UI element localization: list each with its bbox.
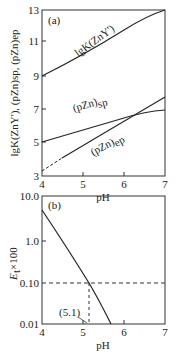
plot-frame-b bbox=[42, 196, 165, 324]
ytick-9: 9 bbox=[34, 70, 40, 82]
ytick-11: 11 bbox=[28, 35, 39, 47]
annotation-5.1: (5.1) bbox=[59, 306, 80, 319]
y-axis-label-b: E t ×100 bbox=[7, 247, 22, 281]
ytick-7: 7 bbox=[34, 103, 40, 115]
series-pZn-sp bbox=[42, 110, 165, 142]
svg-text:×100: ×100 bbox=[7, 247, 19, 270]
xtick-b-6: 6 bbox=[121, 326, 127, 338]
xtick-6: 6 bbox=[121, 178, 127, 190]
svg-text:E: E bbox=[7, 273, 19, 281]
ytick-13: 13 bbox=[28, 4, 40, 16]
series-pZn-ep-dashed bbox=[42, 158, 62, 171]
label-pZn-ep: (pZn) ep bbox=[88, 130, 127, 160]
chart-b: 10.0 1.0 0.10 0.01 4 5 6 7 pH (b) E t ×1… bbox=[7, 190, 168, 351]
ytick-1: 1.0 bbox=[25, 235, 39, 247]
ytick-10: 10.0 bbox=[20, 190, 40, 202]
xtick-7: 7 bbox=[162, 178, 168, 190]
chart-a: 13 11 9 7 5 3 4 5 6 7 pH (a) lgK(ZnY'), … bbox=[8, 4, 168, 203]
svg-text:(pZn): (pZn) bbox=[71, 95, 99, 114]
x-axis-label-a: pH bbox=[96, 191, 110, 203]
ytick-0.1: 0.10 bbox=[20, 277, 40, 289]
series-lgK bbox=[42, 10, 165, 76]
ytick-5: 5 bbox=[34, 136, 40, 148]
panel-label-a: (a) bbox=[48, 14, 61, 27]
ytick-0.01: 0.01 bbox=[20, 318, 39, 330]
xtick-4: 4 bbox=[39, 178, 45, 190]
xtick-5: 5 bbox=[80, 178, 86, 190]
panel-label-b: (b) bbox=[48, 199, 61, 212]
xtick-b-5: 5 bbox=[80, 326, 86, 338]
label-pZn-sp: (pZn) sp bbox=[71, 93, 109, 117]
svg-text:sp: sp bbox=[96, 96, 109, 110]
xtick-b-7: 7 bbox=[162, 326, 168, 338]
y-axis-label-a: lgK(ZnY'), (pZn)sp, (pZn)ep bbox=[8, 29, 21, 157]
label-lgK: lgK(ZnY') bbox=[72, 22, 117, 60]
x-axis-label-b: pH bbox=[96, 339, 110, 351]
figure: 13 11 9 7 5 3 4 5 6 7 pH (a) lgK(ZnY'), … bbox=[0, 0, 175, 354]
xtick-b-4: 4 bbox=[39, 326, 45, 338]
